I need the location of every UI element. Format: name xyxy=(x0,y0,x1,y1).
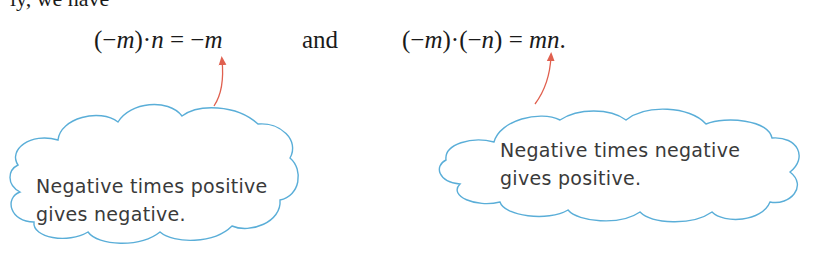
arrow-right xyxy=(535,56,551,104)
callout-right-line2: gives positive. xyxy=(500,164,740,192)
callout-left-line1: Negative times positive xyxy=(36,172,268,200)
callout-left-text: Negative times positive gives negative. xyxy=(36,172,268,228)
callout-right-line1: Negative times negative xyxy=(500,136,740,164)
callout-right-text: Negative times negative gives positive. xyxy=(500,136,740,192)
arrow-left xyxy=(214,60,223,106)
callout-left-line2: gives negative. xyxy=(36,200,268,228)
